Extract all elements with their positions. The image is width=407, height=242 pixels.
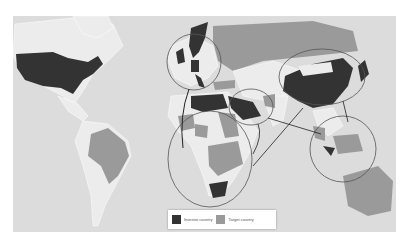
investor-label: Investor country bbox=[184, 217, 212, 222]
legend-investor: Investor country bbox=[172, 215, 212, 224]
target-swatch bbox=[216, 215, 225, 224]
map-svg bbox=[13, 16, 396, 232]
world-map: Investor country Target country bbox=[13, 16, 396, 232]
legend-target: Target country bbox=[216, 215, 253, 224]
investor-swatch bbox=[172, 215, 181, 224]
target-label: Target country bbox=[228, 217, 253, 222]
map-legend: Investor country Target country bbox=[168, 210, 276, 229]
